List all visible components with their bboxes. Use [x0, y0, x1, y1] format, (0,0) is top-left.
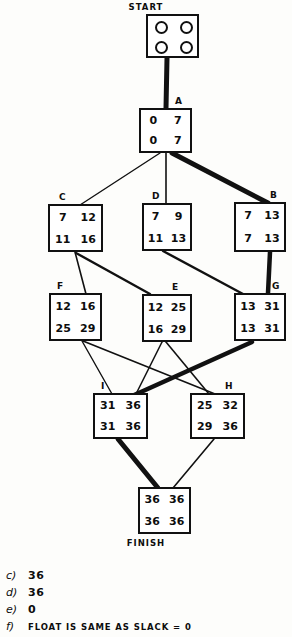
edge-b-g	[268, 252, 270, 293]
node-finish-ef: 36	[165, 489, 190, 511]
node-d-ls: 11	[144, 227, 167, 249]
node-g-es: 13	[236, 295, 260, 317]
node-e-ls: 16	[144, 318, 167, 340]
edge-e-h	[166, 342, 209, 394]
answer-row-e: e) 0	[0, 601, 292, 618]
node-d-es: 7	[144, 205, 167, 227]
node-f-lf: 29	[76, 317, 101, 339]
edge-f-i	[82, 341, 112, 394]
node-b-ef: 13	[260, 204, 284, 227]
node-e-es: 12	[144, 296, 167, 318]
edge-i-finish	[118, 439, 158, 488]
node-label-d: D	[152, 191, 160, 201]
node-i-es: 31	[95, 395, 121, 416]
node-finish-es: 36	[140, 489, 165, 511]
node-b[interactable]: 7 13 7 13	[234, 202, 286, 252]
node-h-ls: 29	[192, 416, 218, 437]
node-g-ef: 31	[260, 295, 284, 317]
node-c[interactable]: 7 12 11 16	[48, 204, 103, 252]
edge-g-i	[132, 342, 252, 396]
node-label-a: A	[175, 96, 182, 106]
finish-caption: FINISH	[0, 538, 292, 548]
node-a-ls: 0	[141, 131, 166, 152]
start-circle-ls	[148, 36, 173, 56]
node-d-lf: 13	[167, 227, 190, 249]
start-circle-lf	[173, 36, 198, 56]
node-c-lf: 16	[76, 228, 102, 250]
node-f[interactable]: 12 16 25 29	[49, 293, 102, 341]
node-a-ef: 7	[166, 110, 191, 131]
edge-a-b	[172, 153, 268, 203]
node-b-lf: 13	[260, 227, 284, 250]
node-h[interactable]: 25 32 29 36	[190, 393, 245, 439]
node-c-es: 7	[50, 206, 76, 228]
node-f-ef: 16	[76, 295, 101, 317]
node-h-es: 25	[192, 395, 218, 416]
answer-key-d: d)	[6, 586, 28, 599]
node-e-lf: 29	[167, 318, 190, 340]
node-b-ls: 7	[236, 227, 260, 250]
answer-value-d: 36	[28, 586, 45, 599]
answer-value-e: 0	[28, 603, 36, 616]
node-a-es: 0	[141, 110, 166, 131]
edge-a-c	[80, 153, 160, 205]
node-label-g: G	[272, 281, 280, 291]
node-e-ef: 25	[167, 296, 190, 318]
node-f-es: 12	[51, 295, 76, 317]
node-finish[interactable]: 36 36 36 36	[138, 487, 191, 534]
node-label-e: E	[172, 282, 179, 292]
node-label-h: H	[225, 381, 233, 391]
node-g-ls: 13	[236, 317, 260, 339]
answer-key-c: c)	[6, 569, 28, 582]
answer-row-d: d) 36	[0, 584, 292, 601]
node-i-lf: 36	[121, 416, 147, 437]
node-e[interactable]: 12 25 16 29	[142, 294, 192, 342]
node-label-i: I	[101, 381, 105, 391]
node-a-lf: 7	[166, 131, 191, 152]
node-h-lf: 36	[218, 416, 244, 437]
node-finish-lf: 36	[165, 511, 190, 533]
start-circle-es	[148, 16, 173, 36]
node-h-ef: 32	[218, 395, 244, 416]
node-d[interactable]: 7 9 11 13	[142, 203, 192, 251]
edge-start-a	[166, 58, 167, 108]
answer-row-c: c) 36	[0, 567, 292, 584]
node-b-es: 7	[236, 204, 260, 227]
node-c-ef: 12	[76, 206, 102, 228]
edge-h-finish	[173, 439, 214, 488]
answer-list: c) 36 d) 36 e) 0 f) FLOAT IS SAME AS SLA…	[0, 567, 292, 635]
node-f-ls: 25	[51, 317, 76, 339]
start-caption: START	[0, 2, 292, 12]
node-start[interactable]	[146, 14, 199, 58]
node-d-ef: 9	[167, 205, 190, 227]
answer-key-f: f)	[6, 620, 28, 633]
node-c-ls: 11	[50, 228, 76, 250]
answer-value-f: FLOAT IS SAME AS SLACK = 0	[28, 622, 192, 632]
node-a[interactable]: 0 7 0 7	[139, 108, 192, 153]
edge-c-e	[76, 253, 150, 294]
start-circle-ef	[173, 16, 198, 36]
node-label-b: B	[270, 190, 277, 200]
answer-row-f: f) FLOAT IS SAME AS SLACK = 0	[0, 618, 292, 635]
node-i-ls: 31	[95, 416, 121, 437]
node-label-c: C	[59, 192, 66, 202]
answer-value-c: 36	[28, 569, 45, 582]
answer-key-e: e)	[6, 603, 28, 616]
node-finish-ls: 36	[140, 511, 165, 533]
node-g-lf: 31	[260, 317, 284, 339]
node-i-ef: 36	[121, 395, 147, 416]
node-g[interactable]: 13 31 13 31	[234, 293, 286, 341]
node-i[interactable]: 31 36 31 36	[93, 393, 148, 439]
node-label-f: F	[57, 281, 64, 291]
